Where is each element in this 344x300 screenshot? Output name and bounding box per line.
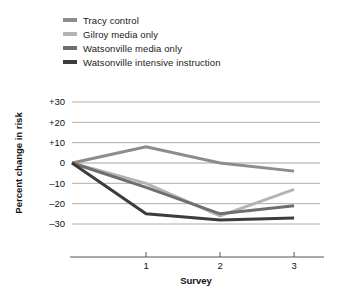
x-axis (70, 252, 324, 257)
x-axis-title: Survey (180, 275, 212, 286)
y-axis-tick-label: +30 (49, 96, 65, 107)
plot-area: +30+20+100–10–20–30 Percent change in ri… (0, 0, 344, 300)
y-axis-title: Percent change in risk (13, 112, 24, 214)
line-chart-svg: +30+20+100–10–20–30 Percent change in ri… (0, 0, 344, 300)
series-line-tracy-control (72, 147, 294, 171)
x-axis-tick-labels: 123 (143, 260, 296, 271)
y-axis-tick-label: 0 (60, 157, 65, 168)
y-axis-tick-label: +10 (49, 137, 65, 148)
y-axis-title-text: Percent change in risk (13, 112, 24, 214)
y-axis-tick-label: –30 (49, 218, 65, 229)
y-axis-tick-label: –20 (49, 198, 65, 209)
chart-figure: Tracy control Gilroy media only Watsonvi… (0, 0, 344, 300)
y-axis-tick-label: –10 (49, 178, 65, 189)
x-axis-tick-label: 2 (217, 260, 222, 271)
y-axis-tick-labels: +30+20+100–10–20–30 (49, 96, 65, 229)
x-axis-title-text: Survey (180, 275, 212, 286)
x-axis-tick-label: 3 (291, 260, 296, 271)
x-axis-tick-label: 1 (143, 260, 148, 271)
y-axis-tick-label: +20 (49, 117, 65, 128)
